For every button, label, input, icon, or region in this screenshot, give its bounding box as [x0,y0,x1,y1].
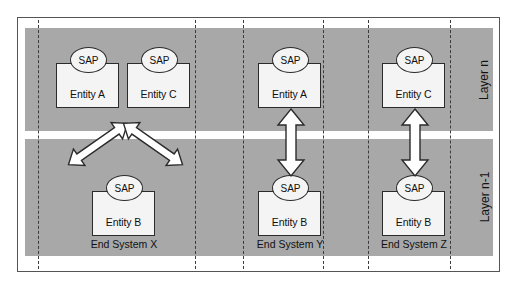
divider-4 [323,20,324,269]
sap-oval-x-top-c[interactable]: SAP [141,47,178,73]
system-label-x: End System X [60,238,188,250]
sap-oval-z-bottom-b[interactable]: SAP [396,175,433,201]
entity-label: Entity B [93,216,154,228]
entity-label: Entity C [128,88,189,100]
sap-oval-y-bottom-b[interactable]: SAP [272,175,309,201]
divider-1 [38,20,39,269]
layer-caption-n-minus-1: Layer n-1 [478,152,492,242]
arrow-y-a-to-b [274,109,308,176]
sap-oval-x-top-a[interactable]: SAP [70,47,107,73]
divider-3 [243,20,244,269]
entity-label: Entity A [259,88,320,100]
arrow-z-c-to-b [398,109,432,176]
divider-5 [368,20,369,269]
entity-label: Entity C [383,88,444,100]
layer-caption-n: Layer n [477,40,491,120]
arrow-x-c-to-b [118,108,188,180]
system-label-y: End System Y [249,238,331,250]
divider-6 [450,20,451,269]
divider-2 [195,20,196,269]
system-label-z: End System Z [373,238,455,250]
entity-label: Entity B [259,216,320,228]
sap-oval-y-top-a[interactable]: SAP [272,47,309,73]
entity-label: Entity B [383,216,444,228]
sap-oval-z-top-c[interactable]: SAP [396,47,433,73]
entity-label: Entity A [57,88,118,100]
sap-layer-diagram: Entity A SAP Entity C SAP Entity A SAP E… [0,0,516,287]
